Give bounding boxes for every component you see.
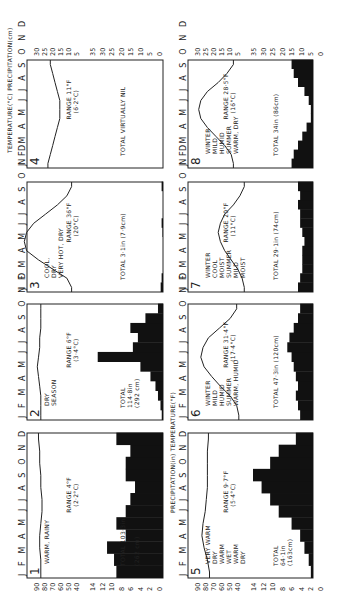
- range-celsius: (3·4°C): [72, 338, 79, 362]
- range-celsius: (2·2°C): [72, 483, 79, 507]
- precip-bar: [298, 182, 313, 192]
- range-label: RANGE 36°F: [65, 202, 72, 242]
- precip-cm-tick: 20: [279, 48, 287, 56]
- range-label: RANGE 6°F: [65, 332, 72, 368]
- precip-bar: [161, 282, 163, 292]
- temp-f-tick: 70: [49, 583, 57, 591]
- temp-f-tick: 70: [210, 583, 218, 591]
- panel-number: 7: [189, 281, 203, 289]
- climate-figure: J F M A M J J A S O N D1WARM, RAINYRANGE…: [0, 0, 346, 593]
- precip-bar: [311, 114, 313, 123]
- precip-bar: [304, 87, 313, 96]
- precip-bar: [116, 433, 163, 445]
- precip-bar: [298, 381, 313, 391]
- precip-in-tick: 0: [156, 587, 164, 591]
- range-celsius: (5·4°C): [229, 483, 236, 507]
- precip-cm-tick: 5: [146, 52, 154, 56]
- precip-bar: [296, 391, 313, 401]
- precip-bar: [135, 481, 163, 493]
- precip-cm-tick: 10: [298, 48, 306, 56]
- total-inches: 64·1in: [279, 545, 286, 566]
- precip-bar: [158, 304, 163, 314]
- temp-f-tick: 80: [41, 583, 49, 591]
- temp-f-tick: 90: [33, 583, 41, 591]
- precip-bar: [126, 505, 163, 517]
- precip-bar: [133, 342, 163, 352]
- precip-in-tick: 4: [298, 587, 306, 591]
- chart-panel-4: [27, 60, 163, 168]
- precip-bar: [294, 150, 313, 159]
- climate-label: HUMID: [218, 384, 225, 406]
- precip-bar: [298, 313, 313, 323]
- temp-c-tick: 30: [33, 48, 41, 56]
- precip-bar: [298, 282, 313, 292]
- precip-bar: [311, 105, 313, 114]
- climate-label: MOIST: [239, 257, 246, 278]
- precip-bar: [292, 517, 313, 529]
- month-labels: J F M A M J J A S O N D: [179, 18, 188, 167]
- climate-label: SUMMER: [225, 250, 232, 278]
- precip-bar: [126, 469, 163, 481]
- climate-label: DRY: [43, 393, 50, 406]
- panel-number: 5: [189, 567, 203, 575]
- precip-bar: [130, 493, 163, 505]
- precip-bar: [298, 78, 313, 87]
- precip-bar: [162, 218, 163, 228]
- range-label: RANGE 28·5°F: [222, 73, 229, 120]
- month-labels: J F M A M J J A S O N D: [179, 270, 188, 419]
- climate-label: DRY: [211, 551, 218, 564]
- month-labels: J F M A M J J A S O N D: [18, 270, 27, 419]
- precip-bar: [298, 200, 313, 210]
- climate-label: SUMMER: [225, 126, 232, 154]
- precip-bar: [309, 553, 313, 565]
- precip-in-tick: 2: [146, 587, 154, 591]
- precip-cm-tick: 15: [288, 48, 296, 56]
- precip-bar: [287, 342, 313, 352]
- precip-bar: [162, 410, 163, 420]
- temp-c-tick: 10: [226, 48, 234, 56]
- climate-label: WINTER: [204, 380, 211, 406]
- precip-in-tick: 8: [279, 587, 287, 591]
- precip-bar: [309, 96, 313, 105]
- temp-f-tick: 50: [65, 583, 73, 591]
- climate-label: WARM, HUMID: [232, 359, 239, 406]
- range-label: RANGE 20°F: [222, 202, 229, 242]
- temp-c-tick: 15: [218, 48, 226, 56]
- total-label: TOTAL: [272, 545, 279, 567]
- precip-bar: [298, 141, 313, 150]
- precip-cm-tick: 30: [99, 48, 107, 56]
- precip-in-tick: 6: [127, 587, 135, 591]
- precip-bar: [311, 566, 313, 578]
- precip-in-tick: 12: [99, 583, 107, 591]
- precip-bar: [279, 445, 313, 457]
- precip-cm-tick: 5: [307, 52, 315, 56]
- precip-in-tick: 12: [260, 583, 268, 591]
- precip-bar: [138, 333, 163, 343]
- temp-c-tick: 20: [210, 48, 218, 56]
- precip-bar: [294, 362, 313, 372]
- precip-bar: [300, 410, 313, 420]
- precip-bar: [294, 323, 313, 333]
- precip-cm-tick: 35: [250, 48, 258, 56]
- precip-bar: [162, 273, 163, 283]
- temp-c-tick: 20: [49, 48, 57, 56]
- precip-bar: [155, 381, 163, 391]
- climate-label: WET: [225, 550, 232, 564]
- panel-number: 4: [28, 157, 42, 165]
- climate-label: VERY HOT, DRY: [57, 228, 64, 278]
- precip-bar: [304, 237, 313, 247]
- precip-bar: [300, 209, 313, 219]
- month-labels: J F M A M J J A S O N D: [18, 428, 27, 577]
- temp-c-tick: 25: [202, 48, 210, 56]
- precip-bar: [307, 123, 313, 132]
- temp-f-tick: 50: [226, 583, 234, 591]
- precip-in-tick: 0: [317, 587, 325, 591]
- total-cm: (292 cm): [133, 378, 140, 408]
- precip-bar: [300, 304, 313, 314]
- total-cm: (262 cm): [133, 536, 140, 566]
- precip-bar: [270, 493, 313, 505]
- range-celsius: (20°C): [72, 215, 79, 236]
- panel-number: 1: [28, 567, 42, 575]
- total-cm: (163cm): [286, 539, 293, 566]
- range-celsius: (17·4°C): [229, 334, 236, 362]
